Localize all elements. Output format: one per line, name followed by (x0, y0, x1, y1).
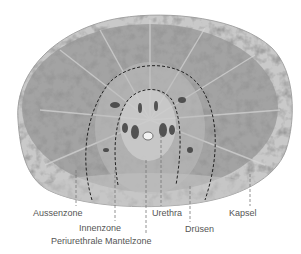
urethra-lumen (143, 132, 153, 140)
label-innenzone: Innenzone (79, 223, 121, 233)
label-urethra: Urethra (152, 208, 182, 218)
label-aussenzone: Aussenzone (33, 208, 83, 218)
label-periurethrale-mantelzone: Periurethrale Mantelzone (51, 236, 152, 246)
label-kapsel: Kapsel (229, 208, 257, 218)
label-druesen: Drüsen (185, 224, 214, 234)
